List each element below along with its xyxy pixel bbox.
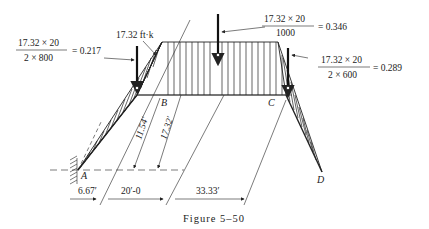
- frame-moment-diagram: A B C D 17.32 ft·k 17.32 × 20 2 × 800 = …: [0, 0, 429, 229]
- dimension-span-20-0: 20′-0: [121, 186, 141, 196]
- annotation-top: 17.32 × 20 1000 = 0.346: [262, 14, 347, 38]
- moment-label: 17.32 ft·k: [116, 30, 154, 40]
- annotation-right: 17.32 × 20 2 × 600 = 0.289: [318, 55, 402, 80]
- dimension-17-32: 17.32′: [158, 114, 175, 140]
- annotation-left-numerator: 17.32 × 20: [18, 38, 59, 48]
- label-point-a: A: [80, 170, 88, 181]
- annotation-right-result: = 0.289: [373, 63, 402, 73]
- annotation-top-numerator: 17.32 × 20: [264, 14, 305, 24]
- annotation-left-denominator: 2 × 800: [24, 53, 53, 63]
- figure-caption: Figure 5–50: [183, 213, 245, 224]
- annotation-top-result: = 0.346: [318, 22, 347, 32]
- annotation-right-numerator: 17.32 × 20: [321, 55, 362, 65]
- dimension-11-54: 11.54′: [133, 115, 150, 141]
- moment-diagram-left-leg: [78, 42, 162, 170]
- annotation-left: 17.32 × 20 2 × 800 = 0.217: [16, 38, 101, 63]
- annotation-right-denominator: 2 × 600: [328, 70, 357, 80]
- dimension-span-6-67: 6.67′: [78, 186, 97, 196]
- moment-diagram-right-leg: [278, 42, 322, 172]
- label-point-b: B: [161, 97, 167, 108]
- frame-members: [78, 95, 322, 172]
- label-point-d: D: [316, 174, 325, 185]
- label-point-c: C: [268, 97, 275, 108]
- annotation-left-result: = 0.217: [72, 46, 101, 56]
- moment-diagram-top-member: [137, 42, 286, 95]
- dimension-span-33-33: 33.33′: [196, 186, 219, 196]
- annotation-top-denominator: 1000: [276, 28, 295, 38]
